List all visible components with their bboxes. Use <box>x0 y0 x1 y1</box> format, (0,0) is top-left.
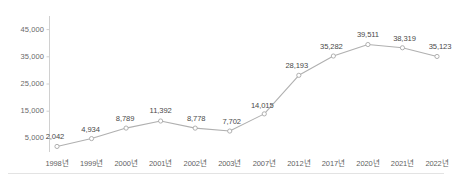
data-point-marker <box>124 126 128 130</box>
data-point-label: 4,934 <box>71 125 111 134</box>
data-point-marker <box>366 42 370 46</box>
data-point-label: 38,319 <box>384 34 424 43</box>
y-axis-tick-label: 35,000 <box>10 52 44 61</box>
series-line <box>57 45 437 147</box>
data-point-marker <box>262 112 266 116</box>
y-axis-tick-label: 45,000 <box>10 25 44 34</box>
data-point-label: 11,392 <box>141 106 181 115</box>
data-point-label: 35,282 <box>311 42 351 51</box>
line-chart: 5,00015,00025,00035,00045,000 1998년1999년… <box>0 0 452 178</box>
data-point-label: 14,015 <box>242 101 282 110</box>
chart-canvas <box>0 0 452 178</box>
x-axis-tick-label: 2022년 <box>417 157 452 168</box>
data-point-marker <box>159 119 163 123</box>
footer-divider <box>8 173 444 174</box>
data-point-marker <box>400 46 404 50</box>
data-point-marker <box>228 129 232 133</box>
data-point-label: 8,778 <box>176 114 216 123</box>
data-point-marker <box>89 136 93 140</box>
data-point-label: 2,042 <box>35 132 75 141</box>
data-point-marker <box>297 73 301 77</box>
data-point-label: 28,193 <box>277 61 317 70</box>
y-axis-tick-label: 25,000 <box>10 79 44 88</box>
data-point-marker <box>435 54 439 58</box>
data-point-label: 8,789 <box>105 114 145 123</box>
data-point-label: 39,511 <box>348 30 388 39</box>
y-axis-tick-label: 15,000 <box>10 106 44 115</box>
data-point-marker <box>331 54 335 58</box>
data-point-label: 7,702 <box>212 117 252 126</box>
data-point-label: 35,123 <box>420 42 452 51</box>
data-point-marker <box>55 144 59 148</box>
data-point-marker <box>193 126 197 130</box>
